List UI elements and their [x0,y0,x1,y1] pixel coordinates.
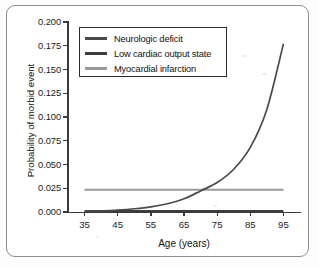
figure-container: 0.0000.0250.0500.0750.1000.1250.1500.175… [0,0,319,268]
x-tick-label: 45 [112,219,123,230]
legend-label: Myocardial infarction [114,64,196,74]
x-axis-title: Age (years) [68,238,300,249]
legend: Neurologic deficitLow cardiac output sta… [79,27,227,77]
legend-swatch-icon [85,37,107,39]
x-tick-label: 85 [245,219,256,230]
y-tick-mark [63,21,67,22]
legend-item: Low cardiac output state [85,46,221,61]
scan-artifact [243,55,247,57]
y-tick-label: 0.125 [38,87,61,98]
legend-label: Low cardiac output state [114,49,211,59]
legend-swatch-icon [85,52,107,54]
y-tick-mark [63,116,67,117]
y-axis-title-wrapper: Probability of morbid event [11,55,25,175]
x-tick-mark [183,212,184,216]
y-tick-label: 0.200 [38,16,61,27]
legend-swatch-icon [85,67,107,69]
x-tick-mark [283,212,284,216]
x-tick-mark [217,212,218,216]
x-tick-mark [250,212,251,216]
y-tick-label: 0.075 [38,135,61,146]
y-tick-label: 0.025 [38,182,61,193]
y-tick-label: 0.150 [38,64,61,75]
x-tick-mark [150,212,151,216]
y-axis-title: Probability of morbid event [25,56,36,186]
y-tick-mark [63,45,67,46]
scan-artifact [96,236,99,238]
legend-item: Myocardial infarction [85,61,221,76]
y-tick-label: 0.100 [38,111,61,122]
y-tick-mark [63,93,67,94]
scan-artifact [214,205,217,207]
x-tick-mark [117,212,118,216]
y-tick-mark [63,140,67,141]
x-tick-label: 95 [278,219,289,230]
y-tick-label: 0.000 [38,206,61,217]
y-tick-label: 0.175 [38,40,61,51]
x-tick-mark [84,212,85,216]
y-tick-label: 0.050 [38,159,61,170]
x-tick-label: 65 [179,219,190,230]
y-axis-line [67,21,69,213]
legend-label: Neurologic deficit [114,34,183,44]
y-tick-mark [63,188,67,189]
x-tick-label: 75 [212,219,223,230]
x-tick-label: 35 [79,219,90,230]
y-tick-mark [63,211,67,212]
scan-artifact [262,73,267,75]
y-tick-mark [63,164,67,165]
legend-item: Neurologic deficit [85,31,221,46]
y-tick-mark [63,69,67,70]
x-tick-label: 55 [146,219,157,230]
